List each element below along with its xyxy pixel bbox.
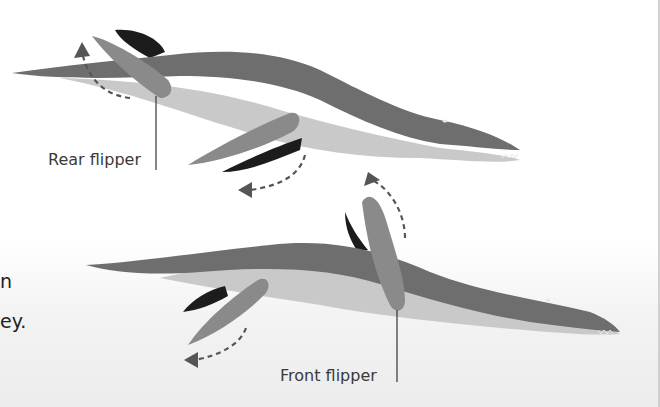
cut-text-fragment-1: n — [0, 270, 12, 292]
plesiosaur-illustration — [0, 0, 660, 407]
bottom-far-rear-flipper — [183, 286, 228, 312]
top-plesiosaur — [12, 30, 520, 198]
front-flipper-label: Front flipper — [280, 366, 377, 385]
rear-flipper-label: Rear flipper — [48, 150, 141, 169]
diagram-canvas: Rear flipper Front flipper n ey. — [0, 0, 660, 407]
cut-text-fragment-2: ey. — [0, 310, 26, 332]
bottom-plesiosaur — [86, 172, 620, 382]
